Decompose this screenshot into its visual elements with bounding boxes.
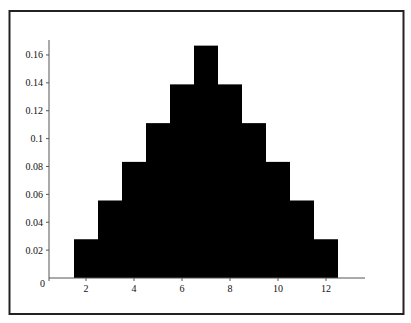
- bar-6: [170, 84, 194, 278]
- y-tick-label: 0.08: [26, 161, 44, 172]
- bar-3: [98, 200, 122, 278]
- bar-10: [266, 162, 290, 278]
- y-tick-label: 0.02: [26, 245, 44, 256]
- y-tick-label: 0.14: [26, 77, 44, 88]
- y-tick-label: 0.1: [31, 133, 44, 144]
- x-tick-label: 10: [273, 283, 283, 294]
- x-tick-label: 4: [132, 283, 137, 294]
- x-tick-label: 8: [228, 283, 233, 294]
- bar-2: [74, 239, 98, 278]
- y-tick-label: 0.16: [26, 49, 44, 60]
- y-tick-label: 0: [40, 278, 45, 289]
- bar-9: [242, 123, 266, 278]
- bar-8: [218, 84, 242, 278]
- y-tick-label: 0.04: [26, 217, 44, 228]
- x-tick-label: 12: [321, 283, 331, 294]
- bar-7: [194, 46, 218, 278]
- bar-5: [146, 123, 170, 278]
- bar-12: [314, 239, 338, 278]
- x-tick-label: 6: [180, 283, 185, 294]
- bar-11: [290, 200, 314, 278]
- x-tick-label: 2: [84, 283, 89, 294]
- y-tick-label: 0.12: [26, 105, 44, 116]
- histogram-chart: 00.020.040.060.080.10.120.140.16 2468101…: [0, 0, 411, 323]
- y-tick-label: 0.06: [26, 189, 44, 200]
- bar-4: [122, 162, 146, 278]
